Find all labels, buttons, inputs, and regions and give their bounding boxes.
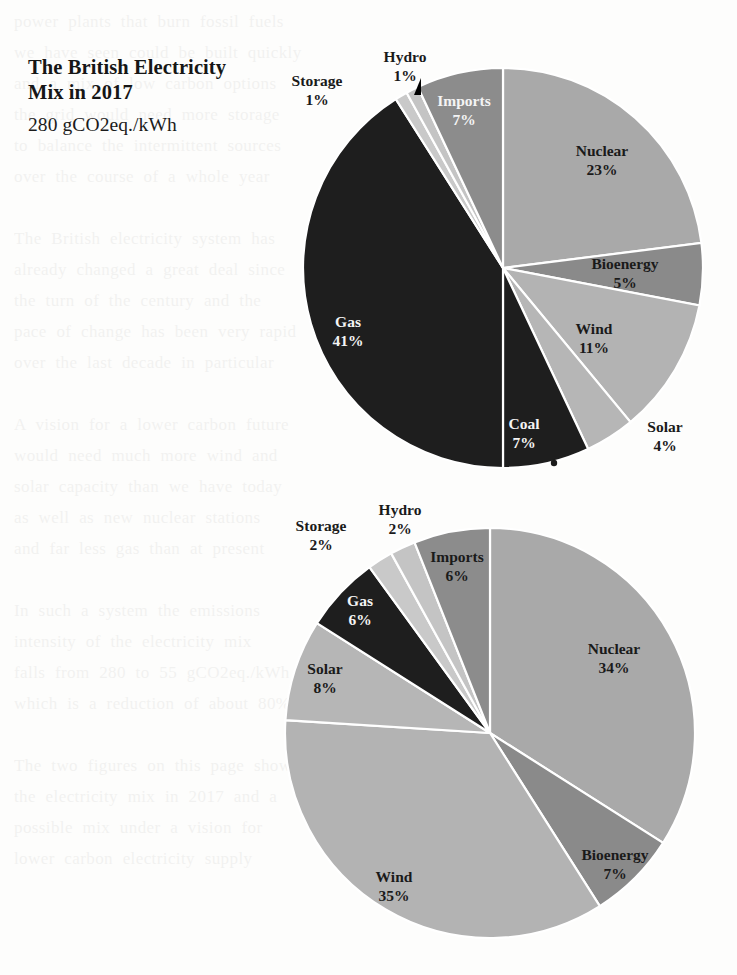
pie-label-value-coal: 7%	[512, 434, 535, 451]
pie-label-name-wind: Wind	[376, 868, 413, 885]
pie-label-name-nuclear: Nuclear	[588, 640, 641, 657]
pie-label-hydro: Hydro1%	[384, 48, 427, 84]
pie-label-name-coal: Coal	[509, 415, 541, 432]
pie-label-name-storage: Storage	[292, 72, 343, 89]
pie-label-name-solar: Solar	[307, 660, 342, 677]
pie-label-value-gas: 41%	[333, 332, 364, 349]
pie-label-name-nuclear: Nuclear	[576, 142, 629, 159]
pie-label-value-nuclear: 23%	[587, 161, 618, 178]
pie-label-value-imports: 6%	[445, 567, 468, 584]
pie-label-value-bioenergy: 7%	[603, 865, 626, 882]
pie-label-hydro: Hydro2%	[379, 501, 422, 537]
pie-label-storage: Storage2%	[296, 517, 347, 553]
pie-label-name-hydro: Hydro	[379, 501, 422, 518]
chart-panel-2017: The British Electricity Mix in 2017 280 …	[0, 0, 737, 487]
pie-label-value-hydro: 1%	[393, 67, 416, 84]
pie-label-name-imports: Imports	[437, 92, 490, 109]
pie-label-name-wind: Wind	[576, 320, 613, 337]
pie-chart-2017: Nuclear23%Bioenergy5%Wind11%Solar4%Coal7…	[0, 0, 737, 487]
pie-label-value-storage: 2%	[309, 536, 332, 553]
pie-chart-vision: Nuclear34%Bioenergy7%Wind35%Solar8%Gas6%…	[0, 487, 737, 975]
figure-electricity-mix-charts: The British Electricity Mix in 2017 280 …	[0, 0, 737, 975]
pie-label-name-gas: Gas	[335, 313, 361, 330]
chart-panel-vision: The British Electricity Mix Under a Visi…	[0, 487, 737, 975]
leader-line-storage	[357, 522, 385, 549]
pie-label-name-bioenergy: Bioenergy	[591, 255, 658, 272]
coal-slice-dot	[551, 460, 557, 466]
pie-label-solar: Solar4%	[647, 418, 682, 454]
pie-label-name-imports: Imports	[430, 548, 483, 565]
pie-label-value-wind: 11%	[579, 339, 609, 356]
pie-label-storage: Storage1%	[292, 72, 343, 108]
pie-label-value-solar: 4%	[653, 437, 676, 454]
pie-label-value-bioenergy: 5%	[613, 274, 636, 291]
pie-label-value-storage: 1%	[305, 91, 328, 108]
pie-label-value-gas: 6%	[348, 611, 371, 628]
pie-label-name-gas: Gas	[347, 592, 373, 609]
pie-label-value-hydro: 2%	[388, 520, 411, 537]
pie-label-name-storage: Storage	[296, 517, 347, 534]
pie-label-value-nuclear: 34%	[599, 659, 630, 676]
pie-label-value-wind: 35%	[379, 887, 410, 904]
pie-label-name-hydro: Hydro	[384, 48, 427, 65]
pie-label-name-bioenergy: Bioenergy	[581, 846, 648, 863]
pie-label-value-imports: 7%	[452, 111, 475, 128]
pie-label-name-solar: Solar	[647, 418, 682, 435]
pie-label-value-solar: 8%	[313, 679, 336, 696]
